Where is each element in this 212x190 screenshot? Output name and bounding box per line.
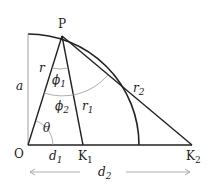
line-r1 [62,36,83,145]
label-d1: d1 [49,149,62,165]
angle-arc-phi1 [52,68,68,69]
label-theta: θ [43,121,51,135]
label-phi2: ϕ2 [55,99,69,115]
label-a: a [16,79,23,93]
label-K2: K2 [186,149,201,165]
label-r: r [39,61,46,75]
label-K1: K1 [78,149,93,165]
geometry-diagram: P O K1 K2 a r r1 r2 ϕ1 ϕ2 θ d1 d2 [0,0,212,190]
label-r2: r2 [133,81,145,97]
label-phi1: ϕ1 [52,73,66,89]
label-O: O [14,147,24,161]
label-r1: r1 [82,99,93,115]
label-d2: d2 [98,165,112,181]
line-r2 [62,36,192,145]
label-P: P [58,17,66,31]
